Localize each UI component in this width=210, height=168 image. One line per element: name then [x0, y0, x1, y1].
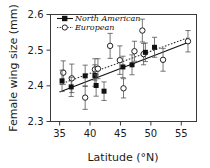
y-tick-label: 2.3: [28, 116, 44, 127]
x-tick-label: 45: [114, 128, 127, 139]
data-point-filled-square: [92, 73, 97, 78]
data-point-filled-square: [69, 84, 74, 89]
data-point-filled-square: [60, 78, 65, 83]
legend-label-north-american: North American: [74, 14, 140, 23]
data-point-open-circle: [107, 43, 112, 48]
series-european: [61, 19, 191, 109]
scatter-plot: 3540455055 2.32.42.52.6 North American E…: [0, 0, 210, 168]
y-axis-tick-labels: 2.32.42.52.6: [28, 9, 44, 127]
data-point-filled-square: [130, 62, 135, 67]
x-axis-title: Latitude (°N): [87, 151, 158, 164]
data-point-filled-square: [152, 45, 157, 50]
y-tick-label: 2.4: [28, 80, 44, 91]
y-tick-label: 2.5: [28, 45, 44, 56]
y-tick-label: 2.6: [28, 9, 44, 20]
data-point-open-circle: [82, 95, 87, 100]
legend-label-european: European: [74, 23, 114, 32]
y-axis-ticks: [47, 15, 51, 122]
chart-legend: North American European: [57, 14, 140, 32]
data-point-open-circle: [121, 86, 126, 91]
data-point-open-circle: [61, 70, 66, 75]
x-tick-label: 55: [175, 128, 188, 139]
data-point-open-circle: [95, 66, 100, 71]
x-axis-ticks: [60, 122, 182, 126]
data-point-filled-square: [102, 89, 107, 94]
data-point-open-circle: [140, 28, 145, 33]
x-tick-label: 40: [84, 128, 97, 139]
y-axis-title: Female wing size (mm): [7, 4, 20, 132]
x-tick-label: 50: [145, 128, 158, 139]
data-point-filled-square: [120, 64, 125, 69]
x-tick-label: 35: [53, 128, 66, 139]
data-point-filled-square: [83, 73, 88, 78]
x-axis-tick-labels: 3540455055: [53, 128, 187, 139]
legend-marker-open-circle: [62, 25, 67, 30]
data-point-filled-square: [94, 83, 99, 88]
data-point-open-circle: [69, 76, 74, 81]
chart-figure: 3540455055 2.32.42.52.6 North American E…: [0, 0, 210, 168]
data-point-filled-square: [143, 50, 148, 55]
data-point-open-circle: [185, 39, 190, 44]
data-point-open-circle: [117, 57, 122, 62]
data-point-open-circle: [160, 57, 165, 62]
legend-marker-filled-square: [62, 16, 67, 21]
data-point-open-circle: [132, 49, 137, 54]
